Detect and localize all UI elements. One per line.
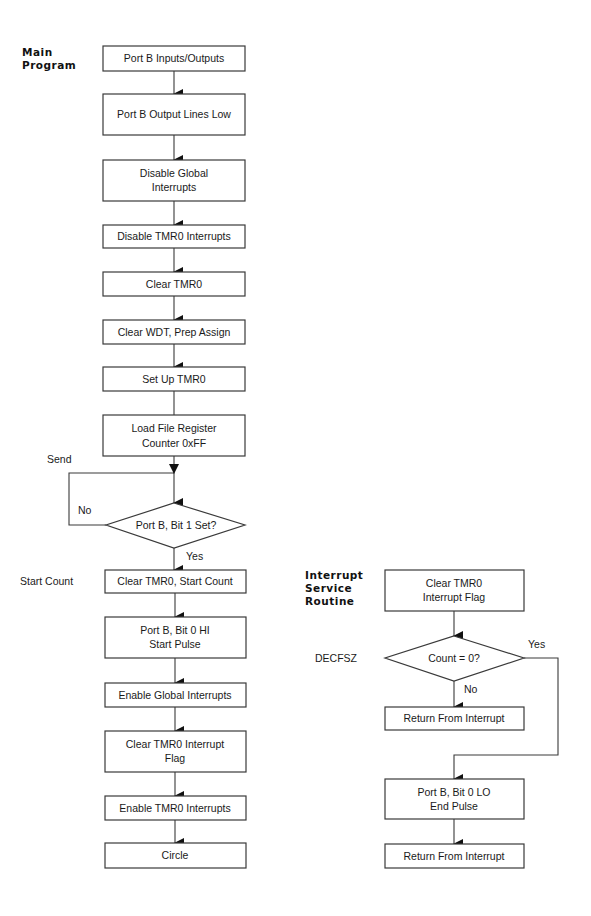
node-set-up-tmr0: Set Up TMR0 bbox=[103, 367, 245, 391]
isr-title: Interrupt Service Routine bbox=[305, 569, 368, 607]
svg-text:Circle: Circle bbox=[162, 849, 189, 861]
node-isr-return-from-interrupt-1: Return From Interrupt bbox=[385, 707, 524, 730]
decision-count-zero: Count = 0? bbox=[385, 636, 524, 681]
node-port-b-inputs-outputs: Port B Inputs/Outputs bbox=[103, 46, 245, 71]
node-disable-tmr0-interrupts: Disable TMR0 Interrupts bbox=[103, 225, 245, 248]
svg-text:Enable TMR0 Interrupts: Enable TMR0 Interrupts bbox=[119, 802, 230, 814]
svg-text:Port B Output Lines Low: Port B Output Lines Low bbox=[117, 108, 231, 120]
svg-text:Counter 0xFF: Counter 0xFF bbox=[142, 437, 206, 449]
svg-text:Port B, Bit 1 Set?: Port B, Bit 1 Set? bbox=[136, 519, 217, 531]
node-isr-clear-tmr0-interrupt-flag: Clear TMR0 Interrupt Flag bbox=[385, 570, 524, 611]
node-enable-tmr0-interrupts: Enable TMR0 Interrupts bbox=[105, 796, 246, 820]
main-program-title: Main Program bbox=[22, 46, 76, 71]
svg-text:Disable TMR0 Interrupts: Disable TMR0 Interrupts bbox=[117, 230, 231, 242]
node-disable-global-interrupts: Disable Global Interrupts bbox=[103, 160, 245, 201]
svg-text:Clear TMR0, Start Count: Clear TMR0, Start Count bbox=[117, 575, 232, 587]
svg-text:Start Pulse: Start Pulse bbox=[149, 638, 201, 650]
svg-text:Port B, Bit 0 HI: Port B, Bit 0 HI bbox=[140, 624, 209, 636]
svg-text:Clear TMR0: Clear TMR0 bbox=[146, 278, 203, 290]
flowchart-canvas: Main Program Port B Inputs/Outputs bbox=[0, 0, 591, 916]
label-yes: Yes bbox=[186, 550, 203, 562]
svg-text:Return From Interrupt: Return From Interrupt bbox=[404, 712, 505, 724]
node-clear-tmr0-interrupt-flag: Clear TMR0 Interrupt Flag bbox=[105, 731, 246, 772]
node-load-file-register: Load File Register Counter 0xFF bbox=[103, 415, 245, 456]
main-program: Main Program Port B Inputs/Outputs bbox=[20, 46, 246, 868]
node-isr-return-from-interrupt-2: Return From Interrupt bbox=[385, 844, 524, 868]
label-no: No bbox=[78, 504, 92, 516]
svg-text:Set Up TMR0: Set Up TMR0 bbox=[142, 373, 206, 385]
svg-text:End Pulse: End Pulse bbox=[430, 800, 478, 812]
svg-text:Count = 0?: Count = 0? bbox=[428, 652, 480, 664]
svg-text:Flag: Flag bbox=[165, 752, 186, 764]
svg-text:Enable Global Interrupts: Enable Global Interrupts bbox=[118, 689, 231, 701]
label-isr-yes: Yes bbox=[528, 638, 545, 650]
label-send: Send bbox=[47, 453, 72, 465]
svg-text:Load File Register: Load File Register bbox=[131, 422, 217, 434]
node-enable-global-interrupts: Enable Global Interrupts bbox=[105, 683, 246, 707]
svg-text:Port B Inputs/Outputs: Port B Inputs/Outputs bbox=[124, 52, 224, 64]
label-start-count: Start Count bbox=[20, 575, 73, 587]
svg-text:Clear WDT, Prep Assign: Clear WDT, Prep Assign bbox=[118, 326, 231, 338]
node-clear-tmr0: Clear TMR0 bbox=[103, 272, 245, 296]
svg-text:Interrupts: Interrupts bbox=[152, 181, 196, 193]
label-isr-no: No bbox=[464, 683, 478, 695]
node-port-b-output-lines-low: Port B Output Lines Low bbox=[103, 94, 245, 135]
label-decfsz: DECFSZ bbox=[315, 652, 358, 664]
svg-text:Clear TMR0: Clear TMR0 bbox=[426, 577, 483, 589]
interrupt-service-routine: Interrupt Service Routine Clear TMR0 Int… bbox=[305, 569, 558, 868]
svg-text:Clear TMR0 Interrupt: Clear TMR0 Interrupt bbox=[126, 738, 225, 750]
node-clear-wdt-prep-assign: Clear WDT, Prep Assign bbox=[103, 320, 245, 344]
svg-text:Port B, Bit 0 LO: Port B, Bit 0 LO bbox=[418, 786, 491, 798]
node-clear-tmr0-start-count: Clear TMR0, Start Count bbox=[105, 570, 246, 593]
node-port-b-bit0-hi: Port B, Bit 0 HI Start Pulse bbox=[105, 617, 246, 658]
svg-text:Disable Global: Disable Global bbox=[140, 167, 208, 179]
node-port-b-bit0-lo: Port B, Bit 0 LO End Pulse bbox=[385, 779, 524, 819]
decision-port-b-bit1-set: Port B, Bit 1 Set? bbox=[106, 503, 245, 548]
svg-text:Interrupt Flag: Interrupt Flag bbox=[423, 591, 486, 603]
node-circle: Circle bbox=[105, 843, 246, 868]
svg-text:Return From Interrupt: Return From Interrupt bbox=[404, 850, 505, 862]
